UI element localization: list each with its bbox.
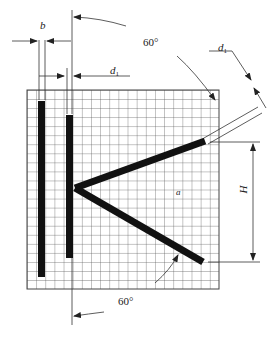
- label-b: b: [40, 20, 46, 31]
- label-a: a: [176, 188, 181, 197]
- label-d1-right: d1: [218, 42, 227, 55]
- inner-bar: [66, 115, 73, 258]
- label-angle-bottom: 60°: [118, 296, 133, 307]
- grid: [27, 90, 219, 289]
- label-d1-top: d1: [110, 65, 119, 78]
- label-H: H: [238, 186, 249, 194]
- label-angle-top: 60°: [143, 37, 158, 48]
- k-pattern-drawing: [0, 0, 277, 337]
- left-long-bar: [38, 101, 45, 277]
